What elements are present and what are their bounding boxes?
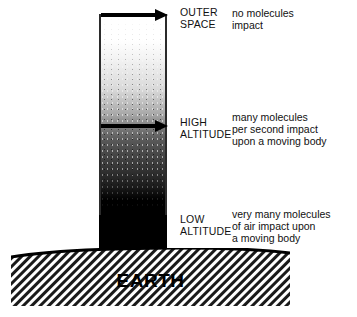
arrow-head — [155, 9, 168, 21]
earth-block: EARTH — [11, 248, 290, 306]
tier-label-outer-space: OUTER SPACE — [180, 7, 218, 30]
arrow-shaft — [101, 124, 157, 128]
tier-description-outer-space: no molecules impact — [232, 7, 294, 31]
density-speckle-texture — [99, 14, 167, 258]
arrow-shaft — [101, 13, 157, 17]
high-altitude-arrow-icon — [101, 120, 169, 132]
tier-description-low-altitude: very many molecules of air impact upon a… — [232, 208, 331, 244]
atmosphere-altitude-diagram: OUTER SPACE no molecules impact HIGH ALT… — [0, 0, 357, 317]
tier-label-low-altitude: LOW ALTITUDE — [180, 214, 232, 237]
tier-label-high-altitude: HIGH ALTITUDE — [180, 117, 232, 140]
column-right-edge-line — [165, 14, 167, 215]
atmosphere-density-column — [99, 14, 167, 258]
outer-space-arrow-icon — [101, 9, 169, 21]
earth-label: EARTH — [11, 270, 290, 292]
column-left-edge-line — [99, 14, 101, 215]
tier-description-high-altitude: many molecules per second impact upon a … — [232, 111, 327, 147]
arrow-head — [155, 120, 168, 132]
